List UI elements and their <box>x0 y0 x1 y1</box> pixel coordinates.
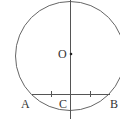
label-b: B <box>110 98 118 110</box>
diagram: O A C B <box>0 0 120 119</box>
center-point <box>70 53 73 56</box>
label-a: A <box>21 98 30 110</box>
label-o: O <box>58 48 67 60</box>
label-c: C <box>59 98 67 110</box>
